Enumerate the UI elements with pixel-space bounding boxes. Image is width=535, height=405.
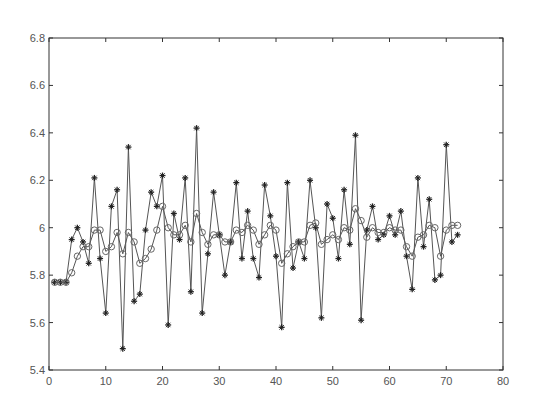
series-layer — [51, 125, 460, 352]
star-marker — [120, 346, 126, 352]
star-marker — [114, 187, 120, 193]
star-marker — [188, 289, 194, 295]
star-marker — [69, 237, 75, 243]
star-marker — [131, 298, 137, 304]
star-marker — [194, 125, 200, 131]
star-marker — [415, 175, 421, 181]
star-marker — [290, 265, 296, 271]
star-marker — [97, 256, 103, 262]
x-tick-label: 70 — [440, 375, 452, 387]
star-marker — [358, 317, 364, 323]
x-tick-label: 30 — [213, 375, 225, 387]
star-marker — [426, 196, 432, 202]
star-marker — [421, 244, 427, 250]
star-marker — [245, 208, 251, 214]
star-marker — [341, 187, 347, 193]
star-marker — [108, 203, 114, 209]
star-marker — [182, 175, 188, 181]
star-marker — [125, 144, 131, 150]
star-marker — [335, 256, 341, 262]
y-axis: 5.45.65.866.26.46.66.8 — [30, 32, 503, 376]
star-marker — [443, 142, 449, 148]
star-marker — [250, 256, 256, 262]
star-marker — [205, 251, 211, 257]
star-marker — [438, 272, 444, 278]
y-tick-label: 5.4 — [30, 364, 45, 376]
star-marker — [375, 237, 381, 243]
star-marker — [171, 210, 177, 216]
star-marker — [74, 225, 80, 231]
star-marker — [239, 256, 245, 262]
star-marker — [307, 177, 313, 183]
y-tick-label: 6.8 — [30, 32, 45, 44]
star-marker — [301, 256, 307, 262]
star-marker — [324, 201, 330, 207]
y-tick-label: 6 — [39, 222, 45, 234]
x-tick-label: 80 — [497, 375, 509, 387]
star-marker — [256, 275, 262, 281]
star-marker — [148, 189, 154, 195]
star-marker — [233, 180, 239, 186]
star-marker — [199, 310, 205, 316]
star-marker — [91, 175, 97, 181]
y-tick-label: 6.2 — [30, 174, 45, 186]
star-marker — [449, 239, 455, 245]
x-tick-label: 10 — [100, 375, 112, 387]
x-tick-label: 50 — [327, 375, 339, 387]
x-axis: 01020304050607080 — [46, 38, 509, 387]
star-marker — [352, 132, 358, 138]
x-tick-label: 40 — [270, 375, 282, 387]
star-marker — [387, 213, 393, 219]
star-marker — [455, 232, 461, 238]
star-marker — [262, 182, 268, 188]
star-marker — [318, 315, 324, 321]
plot-area — [49, 38, 503, 370]
x-tick-label: 20 — [156, 375, 168, 387]
y-tick-label: 6.6 — [30, 79, 45, 91]
star-marker — [137, 291, 143, 297]
star-marker — [165, 322, 171, 328]
star-marker — [279, 324, 285, 330]
y-tick-label: 5.8 — [30, 269, 45, 281]
star-marker — [222, 272, 228, 278]
star-marker — [160, 173, 166, 179]
star-marker — [284, 180, 290, 186]
star-marker — [369, 203, 375, 209]
star-marker — [86, 260, 92, 266]
y-tick-label: 5.6 — [30, 317, 45, 329]
star-marker — [409, 286, 415, 292]
star-marker — [273, 253, 279, 259]
star-marker — [330, 215, 336, 221]
star-marker — [347, 241, 353, 247]
star-marker — [211, 189, 217, 195]
star-marker — [142, 227, 148, 233]
x-tick-label: 60 — [383, 375, 395, 387]
star-marker — [398, 208, 404, 214]
line-chart: 5.45.65.866.26.46.66.8 01020304050607080 — [0, 0, 535, 405]
star-marker — [103, 310, 109, 316]
star-marker — [267, 213, 273, 219]
x-tick-label: 0 — [46, 375, 52, 387]
y-tick-label: 6.4 — [30, 127, 45, 139]
star-marker — [432, 277, 438, 283]
